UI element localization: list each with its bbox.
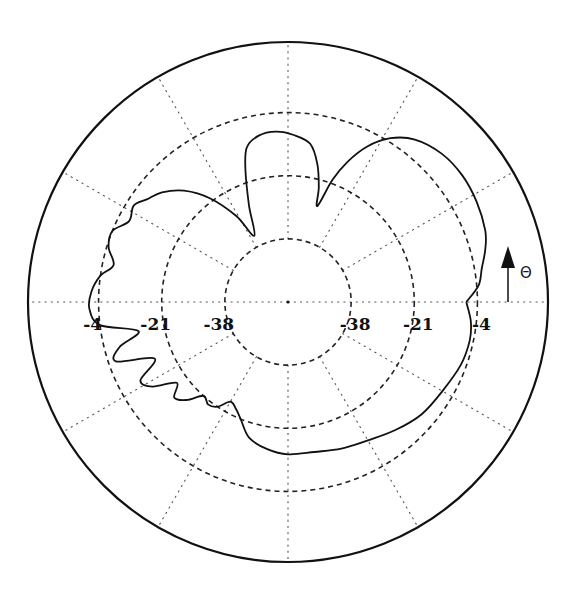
angular-gridline-210 [63,334,233,432]
theta-indicator: Θ [501,246,532,302]
theta-label: Θ [520,264,532,282]
angular-gridline-30 [343,172,513,270]
center-dot [286,300,289,303]
tick-label-right: -21 [403,314,434,334]
pattern-curve [89,132,486,455]
theta-arrow-head-icon [501,246,515,268]
tick-label-right: -38 [340,314,371,334]
tick-label-right: -4 [472,314,491,334]
polar-chart: -4-21-38-38-21-4 Θ [0,0,570,595]
angular-gridline-300 [320,357,418,527]
angular-gridline-60 [320,77,418,247]
tick-label-left: -38 [203,314,234,334]
angular-gridline-330 [343,334,513,432]
radial-tick-labels: -4-21-38-38-21-4 [83,314,491,334]
angular-gridline-150 [63,172,233,270]
tick-label-left: -21 [140,314,171,334]
